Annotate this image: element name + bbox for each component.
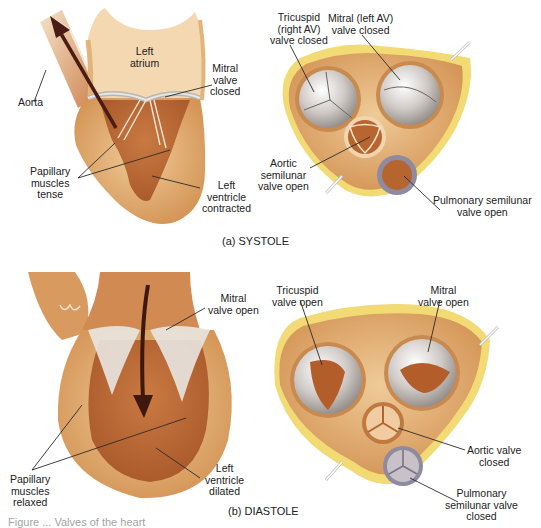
- label-papillary-muscles-tense: Papillary muscles tense: [30, 166, 70, 201]
- figure-caption-partial: Figure ... Valves of the heart: [8, 516, 145, 528]
- diastole-cross-section: [274, 304, 498, 486]
- caption-systole: (a) SYSTOLE: [222, 235, 289, 247]
- label-left-atrium: Left atrium: [130, 46, 159, 69]
- label-papillary-muscles-relaxed: Papillary muscles relaxed: [10, 474, 50, 509]
- label-aorta: Aorta: [18, 97, 43, 109]
- illustration-canvas: [0, 0, 541, 528]
- label-mitral-valve-closed: Mitral valve closed: [210, 63, 240, 98]
- diastole-longitudinal-heart: [28, 272, 232, 498]
- heart-valves-figure: Aorta Left atrium Mitral valve closed Pa…: [0, 0, 541, 528]
- systole-cross-section: [283, 42, 471, 197]
- label-mitral-left-av-valve-closed: Mitral (left AV) valve closed: [328, 13, 393, 36]
- label-mitral-valve-open: Mitral valve open: [208, 293, 259, 316]
- label-pulmonary-semilunar-valve-closed: Pulmonary semilunar valve closed: [445, 488, 518, 523]
- label-aortic-valve-closed: Aortic valve closed: [467, 445, 521, 468]
- label-left-ventricle-contracted: Left ventricle contracted: [202, 180, 251, 215]
- label-tricuspid-valve-closed: Tricuspid (right AV) valve closed: [270, 12, 328, 47]
- label-left-ventricle-dilated: Left ventricle dilated: [205, 463, 244, 498]
- label-tricuspid-valve-open: Tricuspid valve open: [272, 285, 323, 308]
- label-pulmonary-semilunar-valve-open: Pulmonary semilunar valve open: [433, 195, 532, 218]
- label-mitral-valve-open-cross: Mitral valve open: [418, 285, 469, 308]
- caption-diastole: (b) DIASTOLE: [228, 505, 299, 517]
- label-aortic-semilunar-valve-open: Aortic semilunar valve open: [258, 158, 309, 193]
